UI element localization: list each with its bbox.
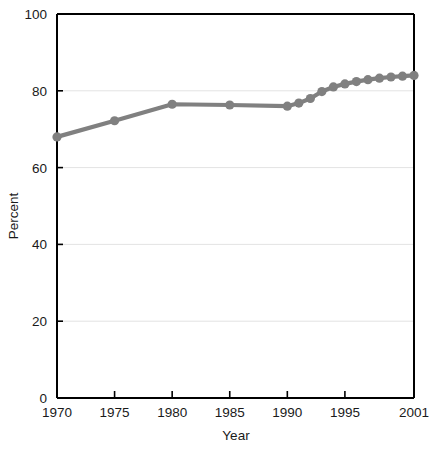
data-point-marker <box>283 102 292 111</box>
data-point-marker <box>409 71 418 80</box>
y-tick-label: 60 <box>32 161 47 176</box>
data-point-marker <box>398 72 407 81</box>
y-tick-label: 80 <box>32 84 47 99</box>
y-tick-label: 0 <box>39 391 47 406</box>
x-tick-label: 1995 <box>330 405 360 420</box>
data-point-marker <box>386 72 395 81</box>
data-point-marker <box>225 100 234 109</box>
chart-background <box>0 0 431 449</box>
chart-page: 020406080100 197019751980198519901995200… <box>0 0 431 449</box>
line-chart: 020406080100 197019751980198519901995200… <box>0 0 431 449</box>
data-point-marker <box>375 74 384 83</box>
x-tick-label: 1980 <box>157 405 187 420</box>
y-tick-label: 100 <box>24 7 47 22</box>
x-axis-title: Year <box>222 428 250 443</box>
data-point-marker <box>317 87 326 96</box>
y-axis-title: Percent <box>6 192 21 239</box>
data-point-marker <box>168 100 177 109</box>
x-tick-label: 1990 <box>272 405 302 420</box>
x-tick-label: 2001 <box>399 405 429 420</box>
y-tick-label: 40 <box>32 237 47 252</box>
y-tick-label: 20 <box>32 314 47 329</box>
data-point-marker <box>329 82 338 91</box>
data-point-marker <box>340 79 349 88</box>
x-tick-label: 1970 <box>42 405 72 420</box>
x-tick-label: 1975 <box>100 405 130 420</box>
data-point-marker <box>110 116 119 125</box>
data-point-marker <box>294 98 303 107</box>
data-point-marker <box>52 132 61 141</box>
data-point-marker <box>363 75 372 84</box>
data-point-marker <box>306 94 315 103</box>
x-tick-label: 1985 <box>215 405 245 420</box>
data-point-marker <box>352 77 361 86</box>
